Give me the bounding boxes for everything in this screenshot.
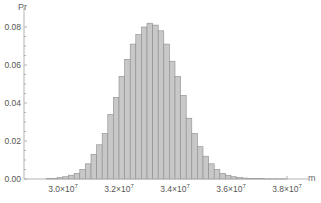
histogram-bar	[169, 61, 175, 179]
histogram-bar	[158, 31, 164, 179]
x-tick-label: 3.6×107	[216, 183, 246, 194]
histogram-bar	[125, 59, 131, 179]
histogram-bar	[203, 156, 209, 179]
x-tick-label: 3.4×107	[160, 183, 190, 194]
histogram-bar	[186, 118, 192, 179]
histogram-bar	[192, 133, 198, 179]
x-axis-label: m	[308, 173, 316, 183]
histogram-bar	[175, 76, 181, 179]
histogram-bar	[102, 133, 108, 179]
histogram-bar	[153, 25, 159, 179]
histogram-bar	[85, 164, 91, 179]
y-tick-label: 0.04	[4, 98, 21, 108]
histogram-bar	[136, 35, 142, 179]
y-tick-label: 0.06	[4, 60, 21, 70]
histogram-bar	[197, 147, 203, 179]
histogram-bar	[74, 173, 80, 179]
histogram-bar	[91, 154, 97, 179]
histogram-bar	[214, 170, 220, 180]
histogram-bar	[147, 23, 153, 179]
histogram-bar	[141, 27, 147, 179]
histogram-bar	[209, 164, 215, 179]
histogram-bar	[225, 175, 231, 179]
histogram-bar	[113, 97, 119, 179]
histogram-bar	[80, 170, 86, 180]
histogram-bar	[220, 173, 226, 179]
histogram-bar	[181, 95, 187, 179]
histogram-bar	[130, 44, 136, 179]
y-tick-label: 0.00	[4, 174, 21, 184]
histogram-bar	[69, 175, 75, 179]
x-tick-label: 3.8×107	[272, 183, 302, 194]
y-tick-label: 0.02	[4, 136, 21, 146]
x-tick-label: 3.0×107	[48, 183, 78, 194]
y-axis-label: Pr	[18, 2, 27, 12]
histogram-chart: 0.000.020.040.060.08 3.0×1073.2×1073.4×1…	[0, 0, 321, 203]
histogram-bars	[46, 23, 287, 179]
histogram-bar	[97, 145, 103, 179]
y-tick-label: 0.08	[4, 22, 21, 32]
histogram-bar	[119, 76, 125, 179]
x-tick-label: 3.2×107	[104, 183, 134, 194]
histogram-bar	[164, 44, 170, 179]
histogram-bar	[108, 114, 114, 179]
